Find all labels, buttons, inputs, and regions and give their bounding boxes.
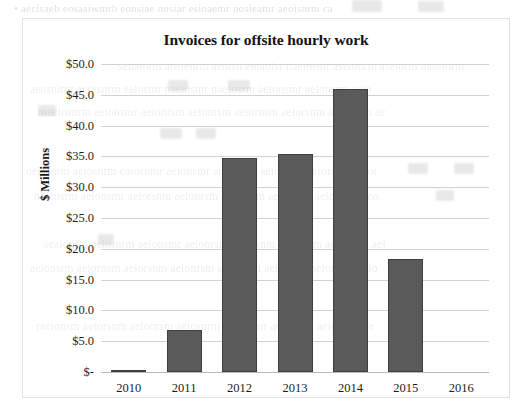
bar-2014[interactable] bbox=[333, 89, 368, 372]
bleed-text-line: • aecisaeb eosasiwmrb eonsiae nosiar esi… bbox=[14, 2, 333, 14]
x-axis-tick-label-2016: 2016 bbox=[449, 381, 474, 396]
chart-title: Invoices for offsite hourly work bbox=[23, 31, 509, 49]
gridline bbox=[101, 95, 489, 96]
chart-container: Invoices for offsite hourly work $ Milli… bbox=[22, 18, 510, 398]
x-axis-tick-label-2011: 2011 bbox=[172, 381, 197, 396]
y-axis-tick-label: $50.0 bbox=[66, 57, 94, 72]
plot-area: $-$5.0$10.0$15.0$20.0$25.0$30.0$35.0$40.… bbox=[101, 64, 489, 372]
y-axis-tick-label: $20.0 bbox=[66, 241, 94, 256]
y-axis-tick-label: $30.0 bbox=[66, 180, 94, 195]
y-axis-tick-label: $5.0 bbox=[72, 334, 94, 349]
bar-2013[interactable] bbox=[278, 154, 313, 372]
y-axis-tick-label: $- bbox=[84, 365, 94, 380]
y-axis-tick-label: $45.0 bbox=[66, 87, 94, 102]
bar-2010[interactable] bbox=[111, 370, 146, 372]
gridline bbox=[101, 64, 489, 65]
x-axis-tick-label-2015: 2015 bbox=[393, 381, 418, 396]
x-axis-tick-label-2014: 2014 bbox=[338, 381, 363, 396]
y-axis-tick-label: $10.0 bbox=[66, 303, 94, 318]
x-axis-tick-label-2010: 2010 bbox=[116, 381, 141, 396]
x-axis-tick-label-2013: 2013 bbox=[283, 381, 308, 396]
y-axis-tick-label: $15.0 bbox=[66, 272, 94, 287]
y-axis-title: $ Millions bbox=[38, 125, 53, 225]
bar-2011[interactable] bbox=[167, 330, 202, 372]
x-axis-tick-label-2012: 2012 bbox=[227, 381, 252, 396]
y-axis-tick-label: $35.0 bbox=[66, 149, 94, 164]
bar-2012[interactable] bbox=[222, 158, 257, 372]
bar-2015[interactable] bbox=[388, 259, 423, 372]
gridline bbox=[101, 372, 489, 373]
bleed-blob bbox=[418, 1, 444, 12]
gridline bbox=[101, 126, 489, 127]
y-axis-tick-label: $25.0 bbox=[66, 211, 94, 226]
bleed-blob bbox=[352, 0, 382, 12]
y-axis-tick-label: $40.0 bbox=[66, 118, 94, 133]
